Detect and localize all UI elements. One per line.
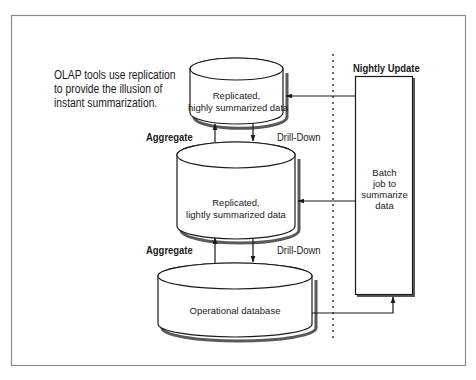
bottom-store-label-text: Operational database — [158, 305, 312, 317]
aggregate-label-lower: Aggregate — [146, 244, 193, 257]
batch-label-line-4: data — [356, 200, 413, 211]
caption-text: OLAP tools use replication to provide th… — [54, 68, 175, 110]
operational-to-batch-arrow — [312, 297, 393, 313]
caption-line-3: instant summarization. — [54, 96, 175, 110]
drilldown-label-lower: Drill-Down — [277, 244, 321, 257]
caption-line-2: to provide the illusion of — [54, 82, 175, 96]
batch-label-line-1: Batch — [356, 167, 413, 178]
top-store-label-line-1: Replicated, — [188, 90, 285, 102]
nightly-update-label: Nightly Update — [353, 62, 420, 75]
top-store-label: Replicated, highly summarized data — [188, 90, 285, 114]
batch-label-line-2: job to — [356, 178, 413, 189]
middle-store-label-line-2: lightly summarized data — [177, 209, 295, 221]
caption-line-1: OLAP tools use replication — [54, 68, 175, 82]
top-store-label-line-2: highly summarized data — [188, 102, 285, 114]
middle-store-label-line-1: Replicated, — [177, 197, 295, 209]
drilldown-label-upper: Drill-Down — [277, 131, 321, 144]
aggregate-label-upper: Aggregate — [146, 131, 193, 144]
batch-job-label: Batch job to summarize data — [356, 167, 413, 211]
batch-label-line-3: summarize — [356, 189, 413, 200]
bottom-store-label: Operational database — [158, 305, 312, 317]
middle-store-label: Replicated, lightly summarized data — [177, 197, 295, 221]
bottom-store-cylinder — [158, 263, 316, 341]
middle-store-cylinder — [177, 142, 299, 243]
